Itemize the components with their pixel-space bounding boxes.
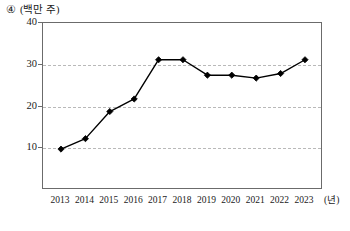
y-tick-label-40: 40 bbox=[9, 17, 37, 28]
data-point-2023 bbox=[302, 57, 308, 63]
y-axis-unit-caption: ④ (백만 주) bbox=[6, 3, 60, 16]
data-point-2020 bbox=[229, 72, 235, 78]
x-tick-label-2015: 2015 bbox=[99, 194, 118, 206]
x-tick-label-2020: 2020 bbox=[221, 194, 240, 206]
x-tick-label-2013: 2013 bbox=[51, 194, 70, 206]
x-tick-label-2017: 2017 bbox=[148, 194, 167, 206]
y-tick-label-30: 30 bbox=[9, 59, 37, 70]
x-tick-label-2022: 2022 bbox=[270, 194, 289, 206]
y-tick-label-20: 20 bbox=[9, 101, 37, 112]
plot-area bbox=[42, 22, 322, 189]
x-tick-label-2021: 2021 bbox=[246, 194, 265, 206]
x-tick-label-2014: 2014 bbox=[75, 194, 94, 206]
x-tick-label-2018: 2018 bbox=[173, 194, 192, 206]
line-series-layer bbox=[43, 23, 323, 190]
series-markers bbox=[58, 57, 308, 153]
y-tick-label-10: 10 bbox=[9, 142, 37, 153]
y-axis-unit-label: (백만 주) bbox=[20, 3, 60, 16]
x-tick-label-2016: 2016 bbox=[124, 194, 143, 206]
x-tick-label-2019: 2019 bbox=[197, 194, 216, 206]
data-point-2021 bbox=[253, 75, 259, 81]
x-axis-unit-label: (년) bbox=[324, 194, 339, 206]
x-axis: 2013201420152016201720182019202020212022… bbox=[42, 194, 322, 210]
series-line bbox=[61, 60, 305, 149]
chart-figure: ④ (백만 주) 40302010 2013201420152016201720… bbox=[0, 0, 350, 231]
data-point-2022 bbox=[278, 70, 284, 76]
x-tick-label-2023: 2023 bbox=[295, 194, 314, 206]
item-number-marker: ④ bbox=[6, 3, 16, 16]
data-point-2013 bbox=[58, 146, 64, 152]
